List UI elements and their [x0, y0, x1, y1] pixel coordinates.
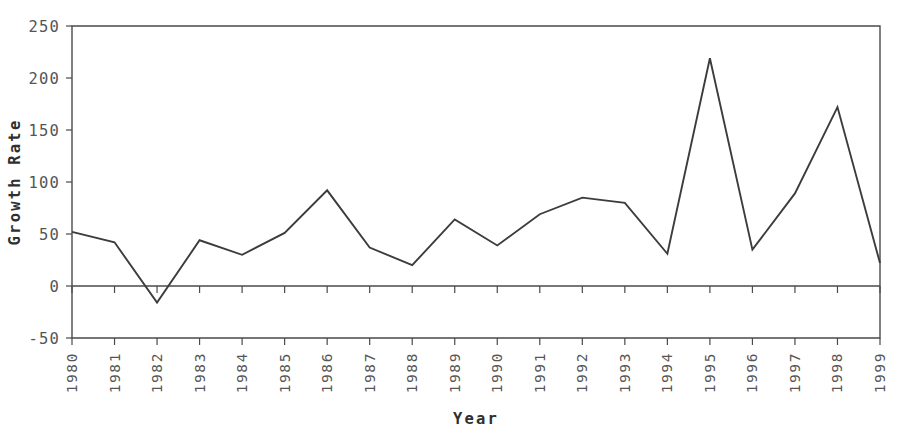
x-tick-label: 1984: [234, 352, 250, 393]
x-axis-ticks: [72, 286, 880, 345]
y-tick-label: 200: [28, 70, 60, 88]
growth-rate-line-chart: 250200150100500-50 198019811982198319841…: [0, 0, 900, 437]
y-tick-label: 0: [49, 278, 60, 296]
x-tick-label: 1994: [659, 352, 675, 393]
y-tick-label: 150: [28, 122, 60, 140]
x-tick-label: 1989: [447, 352, 463, 393]
chart-canvas: 250200150100500-50 198019811982198319841…: [0, 0, 900, 437]
x-tick-label: 1988: [404, 352, 420, 393]
growth-rate-series-line: [72, 58, 880, 302]
x-tick-label: 1986: [319, 352, 335, 393]
x-tick-label: 1985: [277, 352, 293, 393]
y-tick-label: 50: [39, 226, 60, 244]
x-tick-label: 1990: [489, 352, 505, 393]
y-axis-tick-labels: 250200150100500-50: [28, 18, 60, 348]
x-tick-label: 1980: [64, 352, 80, 393]
x-tick-label: 1991: [532, 352, 548, 393]
x-tick-label: 1981: [107, 352, 123, 393]
x-tick-label: 1993: [617, 352, 633, 393]
plot-frame: [72, 26, 880, 338]
x-tick-label: 1982: [149, 352, 165, 393]
x-tick-label: 1987: [362, 352, 378, 393]
y-tick-label: 250: [28, 18, 60, 36]
x-tick-label: 1995: [702, 352, 718, 393]
x-axis-tick-labels: 1980198119821983198419851986198719881989…: [64, 352, 888, 393]
y-axis-title: Growth Rate: [6, 119, 24, 246]
x-tick-label: 1998: [829, 352, 845, 393]
x-tick-label: 1996: [744, 352, 760, 393]
y-tick-label: 100: [28, 174, 60, 192]
x-tick-label: 1997: [787, 352, 803, 393]
y-axis-ticks: [66, 26, 72, 338]
x-tick-label: 1999: [872, 352, 888, 393]
x-tick-label: 1983: [192, 352, 208, 393]
x-tick-label: 1992: [574, 352, 590, 393]
y-tick-label: -50: [28, 330, 60, 348]
x-axis-title: Year: [453, 410, 499, 428]
